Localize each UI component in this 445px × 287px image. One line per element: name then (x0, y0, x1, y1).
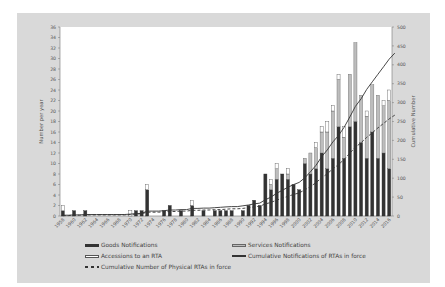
goods-bar (286, 179, 289, 216)
x-tick-label: 2002 (301, 217, 313, 229)
y-tick-label: 14 (50, 140, 56, 145)
x-tick-label: 1982 (189, 217, 201, 229)
goods-bar (298, 190, 301, 216)
goods-swatch-icon (85, 244, 99, 247)
y-tick-label: 8 (53, 172, 56, 177)
y2-axis-title: Cumulative Number (410, 95, 416, 148)
y-axis-title: Number per year (38, 98, 45, 143)
goods-bar (264, 174, 267, 216)
accessions-bar (382, 101, 385, 106)
accessions-bar (286, 169, 289, 174)
y2-tick-label: 150 (397, 157, 406, 162)
x-tick-label: 1964 (87, 217, 99, 229)
x-tick-label: 1978 (166, 217, 178, 229)
x-tick-label: 2010 (346, 217, 358, 229)
x-tick-label: 1984 (200, 217, 212, 229)
y2-tick-label: 250 (397, 119, 406, 124)
goods-bar (343, 158, 346, 216)
goods-bar (292, 185, 295, 217)
legend-cum-physical-label: Cumulative Number of Physical RTAs in fo… (101, 264, 231, 270)
services-bar (388, 101, 391, 169)
x-tick-label: 1968 (110, 217, 122, 229)
y2-tick-label: 300 (397, 100, 406, 105)
services-bar (303, 158, 306, 163)
x-tick-label: 1980 (178, 217, 190, 229)
goods-bar (253, 200, 256, 216)
x-tick-label: 1994 (256, 217, 268, 229)
accessions-bar (388, 90, 391, 101)
y-tick-label: 0 (53, 214, 56, 219)
accessions-bar (275, 164, 278, 169)
goods-bar (269, 190, 272, 216)
goods-bar (258, 206, 261, 217)
legend-cum-notifications-label: Cumulative Notifications of RTAs in forc… (248, 253, 366, 259)
services-bar (320, 132, 323, 153)
services-bar (382, 106, 385, 153)
goods-bar (354, 122, 357, 217)
y-tick-label: 10 (50, 161, 56, 166)
goods-bar (275, 179, 278, 216)
x-tick-label: 1966 (99, 217, 111, 229)
chart-plot: 0246810121416182022242628303234360501001… (0, 0, 445, 287)
services-bar (354, 43, 357, 122)
x-tick-label: 2008 (335, 217, 347, 229)
services-bar (286, 174, 289, 179)
accessions-bar (191, 200, 194, 205)
goods-bar (213, 211, 216, 216)
services-bar (343, 137, 346, 158)
y-tick-label: 28 (50, 67, 56, 72)
y-tick-label: 24 (50, 88, 56, 93)
accessions-bar (269, 179, 272, 184)
x-tick-label: 1992 (245, 217, 257, 229)
legend-cum-physical: Cumulative Number of Physical RTAs in fo… (85, 264, 231, 270)
y2-tick-label: 500 (397, 25, 406, 30)
x-tick-label: 1996 (268, 217, 280, 229)
y2-tick-label: 200 (397, 138, 406, 143)
legend-cum-notifications: Cumulative Notifications of RTAs in forc… (232, 253, 366, 259)
accessions-bar (320, 127, 323, 132)
x-tick-label: 1970 (121, 217, 133, 229)
goods-bar (247, 206, 250, 217)
legend-goods: Goods Notifications (85, 242, 157, 248)
x-tick-label: 2000 (290, 217, 302, 229)
x-tick-label: 1972 (132, 217, 144, 229)
y2-tick-label: 100 (397, 176, 406, 181)
goods-bar (320, 153, 323, 216)
services-bar (337, 80, 340, 127)
accessions-bar (331, 106, 334, 111)
x-tick-label: 1958 (54, 217, 66, 229)
goods-bar (360, 143, 363, 217)
x-tick-label: 1960 (65, 217, 77, 229)
y-tick-label: 20 (50, 109, 56, 114)
services-bar (360, 95, 363, 142)
accessions-bar (337, 74, 340, 79)
goods-bar (168, 206, 171, 217)
goods-bar (382, 153, 385, 216)
y-tick-label: 2 (53, 203, 56, 208)
services-bar (275, 169, 278, 180)
legend-services-label: Services Notifications (248, 242, 311, 248)
x-tick-label: 2016 (380, 217, 392, 229)
legend-goods-label: Goods Notifications (101, 242, 157, 248)
y-tick-label: 16 (50, 130, 56, 135)
y2-tick-label: 0 (397, 214, 400, 219)
x-tick-label: 1976 (155, 217, 167, 229)
y-tick-label: 22 (50, 98, 56, 103)
legend-accessions-label: Accessions to an RTA (101, 253, 162, 259)
accessions-bar (365, 111, 368, 116)
accessions-swatch-icon (85, 255, 99, 258)
y-tick-label: 18 (50, 119, 56, 124)
goods-bar (309, 174, 312, 216)
goods-bar (326, 169, 329, 216)
x-tick-label: 1990 (234, 217, 246, 229)
x-tick-label: 2006 (324, 217, 336, 229)
y-tick-label: 34 (50, 35, 56, 40)
solid-line-swatch-icon (232, 255, 246, 256)
accessions-bar (129, 211, 132, 216)
x-tick-label: 2012 (358, 217, 370, 229)
y-tick-label: 26 (50, 77, 56, 82)
y-tick-label: 30 (50, 56, 56, 61)
accessions-bar (146, 185, 149, 190)
x-tick-label: 1988 (223, 217, 235, 229)
goods-bar (224, 211, 227, 216)
